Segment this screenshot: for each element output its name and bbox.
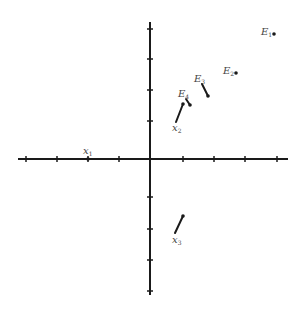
label-subscript: 3 [178,239,182,246]
point-E2: E2 [222,65,238,77]
point-x3: x3 [172,214,185,246]
label-subscript: 2 [230,70,234,77]
point-dot [188,103,192,107]
point-label: x1 [83,145,92,157]
point-dot [86,157,90,161]
point-label: E2 [222,65,234,77]
points: E1E2E3E4x2x1x3 [83,26,276,246]
point-dot [272,32,276,36]
point-label: x3 [172,234,182,246]
point-label: E3 [193,73,205,85]
point-E1: E1 [260,26,276,38]
label-subscript: 1 [89,150,93,157]
point-dot [206,94,210,98]
label-subscript: 4 [185,93,189,100]
axes [18,22,288,295]
point-x2: x2 [172,102,185,134]
point-label: x2 [172,122,182,134]
vector-segment [176,104,183,122]
point-label: E4 [177,88,189,100]
point-dot [181,214,185,218]
point-E3: E3 [193,73,210,98]
vector-segment [202,84,208,96]
point-label: E1 [260,26,272,38]
vector-diagram: E1E2E3E4x2x1x3 [0,0,299,313]
label-subscript: 2 [178,127,182,134]
point-dot [181,102,185,106]
vector-segment [175,216,183,233]
point-dot [234,71,238,75]
label-subscript: 3 [201,78,205,85]
label-subscript: 1 [268,31,272,38]
